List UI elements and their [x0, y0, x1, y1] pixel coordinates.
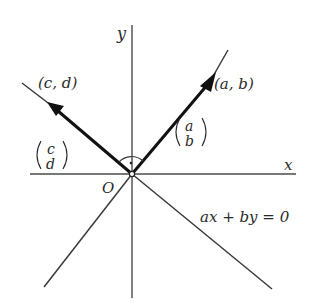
- diagram-canvas: y x O (a, b) (c, d) a b c d ax + by = 0: [0, 0, 314, 308]
- line-ax-by-zero: [132, 174, 272, 289]
- column-vector-cd-bottom: d: [46, 156, 55, 172]
- origin-label: O: [102, 179, 114, 197]
- column-vector-ab: a b: [176, 118, 206, 149]
- x-axis-label: x: [284, 156, 293, 174]
- left-paren: [37, 141, 41, 169]
- right-angle-dot: [130, 162, 133, 165]
- column-vector-cd: c d: [37, 141, 67, 172]
- line-equation-label: ax + by = 0: [200, 208, 290, 226]
- y-axis-label: y: [116, 24, 127, 43]
- line-ab-extension: [44, 174, 132, 287]
- right-paren: [63, 141, 67, 169]
- right-paren: [202, 118, 206, 146]
- vector-cd: [58, 111, 132, 174]
- column-vector-cd-top: c: [47, 141, 55, 157]
- column-vector-ab-top: a: [185, 118, 193, 134]
- point-label-cd: (c, d): [38, 74, 77, 92]
- point-label-ab: (a, b): [214, 75, 254, 93]
- vector-ab: [132, 84, 208, 174]
- origin-point: [129, 171, 134, 176]
- column-vector-ab-bottom: b: [185, 133, 194, 149]
- right-angle-arc: [119, 157, 143, 162]
